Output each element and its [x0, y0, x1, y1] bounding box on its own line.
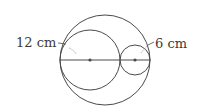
label-12cm: 12 cm — [16, 35, 56, 50]
large-circle-center — [88, 58, 91, 61]
small-circle-center — [133, 58, 136, 61]
leader-6cm — [148, 42, 154, 45]
label-6cm: 6 cm — [155, 36, 187, 51]
circles-diagram: 12 cm 6 cm — [0, 0, 200, 109]
radius-arrow-12cm — [69, 48, 76, 54]
